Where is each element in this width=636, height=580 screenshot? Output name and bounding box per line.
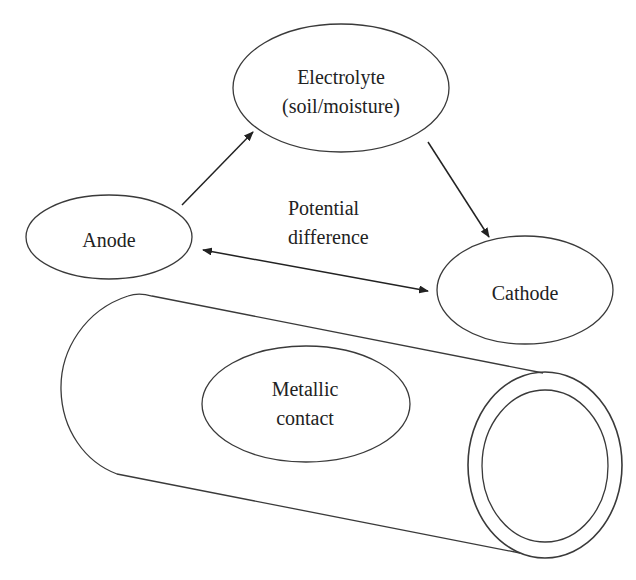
node-cathode: Cathode <box>437 236 613 344</box>
arrow-electrolyte-to-cathode <box>428 142 489 237</box>
anode-label: Anode <box>82 229 135 251</box>
node-electrolyte: Electrolyte (soil/moisture) <box>233 24 449 152</box>
node-metallic-contact: Metallic contact <box>202 346 410 462</box>
pipe <box>61 294 622 558</box>
electrolyte-ellipse <box>233 24 449 152</box>
potential-difference-label-line2: difference <box>288 226 369 248</box>
metallic-contact-label-line2: contact <box>276 407 334 429</box>
cathode-label: Cathode <box>492 282 559 304</box>
metallic-contact-label-line1: Metallic <box>272 378 339 400</box>
pipe-inner-rim <box>482 390 608 542</box>
node-anode: Anode <box>26 195 192 279</box>
metallic-contact-ellipse <box>202 346 410 462</box>
arrow-anode-to-electrolyte <box>182 132 253 205</box>
corrosion-cell-diagram: Electrolyte (soil/moisture) Anode Cathod… <box>0 0 636 580</box>
electrolyte-label-line2: (soil/moisture) <box>282 95 400 118</box>
electrolyte-label-line1: Electrolyte <box>297 66 385 89</box>
potential-difference-label-line1: Potential <box>288 197 360 219</box>
double-arrow-potential-difference <box>203 250 428 291</box>
pipe-outer-rim <box>468 372 622 558</box>
